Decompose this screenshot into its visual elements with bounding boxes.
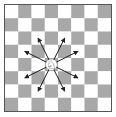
move-arrow	[25, 67, 47, 78]
move-arrow	[56, 51, 78, 62]
knight-glyph: ♘	[46, 58, 57, 72]
knight-move-arrows: ♘	[0, 0, 116, 117]
knight-icon: ♘	[46, 58, 57, 72]
move-arrow	[38, 69, 49, 91]
move-arrow	[25, 51, 47, 62]
move-arrow	[54, 69, 65, 91]
move-arrow	[56, 67, 78, 78]
